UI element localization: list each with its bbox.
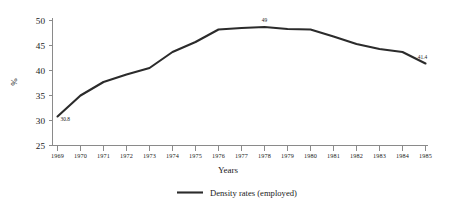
- legend-label: Density rates (employed): [210, 188, 297, 198]
- x-tick-label: 1981: [327, 152, 340, 159]
- data-point-labels: 30.8 49 41.4: [61, 17, 428, 123]
- y-axis-ticks: [49, 21, 53, 146]
- x-tick-label: 1985: [419, 152, 432, 159]
- y-tick-label: 35: [36, 91, 46, 101]
- y-axis-title: %: [9, 78, 19, 86]
- x-tick-label: 1977: [235, 152, 248, 159]
- data-series-line: [58, 27, 426, 117]
- y-tick-label: 45: [36, 41, 46, 51]
- x-axis-ticks: [58, 146, 426, 151]
- chart-legend: Density rates (employed): [177, 188, 297, 198]
- line-chart: 50 45 40 35 30 25 %: [0, 0, 458, 210]
- y-axis-tick-labels: 50 45 40 35 30 25: [36, 16, 46, 151]
- chart-figure: 50 45 40 35 30 25 %: [0, 0, 458, 210]
- x-tick-label: 1973: [143, 152, 156, 159]
- y-tick-label: 50: [36, 16, 46, 26]
- x-tick-label: 1980: [304, 152, 317, 159]
- point-label-peak: 49: [262, 17, 268, 23]
- point-label-start: 30.8: [61, 116, 71, 122]
- y-tick-label: 25: [36, 141, 46, 151]
- x-tick-label: 1982: [350, 152, 363, 159]
- x-tick-label: 1979: [281, 152, 294, 159]
- point-label-end: 41.4: [418, 54, 428, 60]
- x-tick-label: 1978: [258, 152, 271, 159]
- x-tick-label: 1969: [51, 152, 64, 159]
- x-tick-label: 1970: [74, 152, 87, 159]
- x-tick-label: 1971: [97, 152, 110, 159]
- x-axis-tick-labels: 1969 1970 1971 1972 1973 1974 1975 1976 …: [51, 152, 432, 159]
- y-tick-label: 40: [36, 66, 46, 76]
- x-tick-label: 1975: [189, 152, 202, 159]
- x-tick-label: 1972: [120, 152, 133, 159]
- x-axis-title: Years: [218, 165, 239, 175]
- x-tick-label: 1976: [212, 152, 225, 159]
- x-tick-label: 1983: [373, 152, 386, 159]
- y-tick-label: 30: [36, 116, 46, 126]
- x-tick-label: 1974: [166, 152, 179, 159]
- x-tick-label: 1984: [396, 152, 409, 159]
